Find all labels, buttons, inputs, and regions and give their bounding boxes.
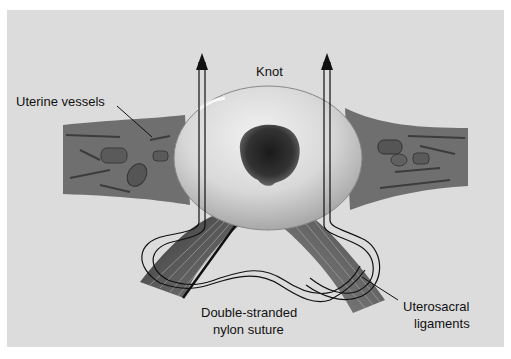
right-arrowhead-icon — [321, 53, 333, 70]
left-uterosacral-ligament — [140, 215, 246, 298]
label-ligaments-line2: ligaments — [414, 316, 470, 331]
label-suture-line1: Double-stranded — [201, 305, 297, 320]
label-knot: Knot — [256, 64, 283, 79]
label-suture-line2: nylon suture — [213, 322, 284, 337]
label-uterine-vessels: Uterine vessels — [16, 94, 105, 109]
right-tissue-band — [345, 108, 468, 210]
left-tissue-band — [63, 115, 190, 205]
label-ligaments-line1: Uterosacral — [403, 299, 469, 314]
left-arrowhead-icon — [196, 53, 208, 70]
